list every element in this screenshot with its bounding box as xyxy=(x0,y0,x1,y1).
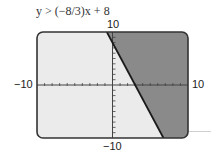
inequality-plot xyxy=(0,0,211,154)
